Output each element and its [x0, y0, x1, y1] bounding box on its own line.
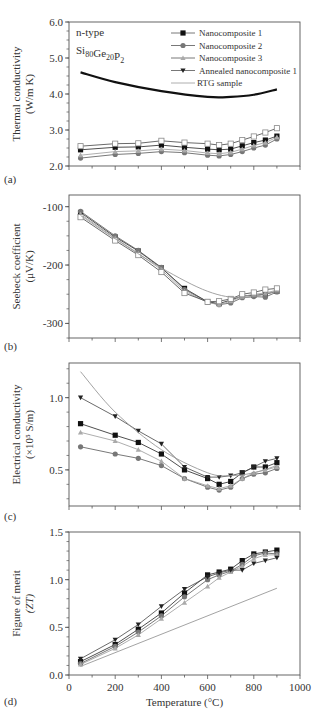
- y-tick-label: 6.0: [49, 16, 63, 28]
- y-axis-unit: (×10⁵ S/m): [23, 410, 36, 459]
- y-axis-title: Thermal conductivity: [10, 46, 22, 141]
- series-nanocomposite-1: [78, 210, 280, 306]
- y-tick-label: 1.0: [49, 392, 63, 404]
- series-annealed-nanocomposite-1: [78, 126, 280, 149]
- panel-label: (b): [4, 340, 17, 353]
- x-tick-label: 0: [66, 681, 72, 693]
- panel-label: (c): [4, 510, 17, 523]
- panel-label: (d): [4, 695, 17, 708]
- series-nanocomposite-1: [78, 548, 280, 665]
- series-rtg-sample: [81, 588, 277, 666]
- y-tick-label: 0.5: [49, 621, 63, 633]
- series-annealed-nanocomposite-1: [78, 556, 280, 662]
- y-axis-unit: (ZT): [23, 593, 36, 613]
- legend-item: Nanocomposite 3: [199, 53, 263, 63]
- y-axis-title: Electrical conductivity: [10, 384, 22, 484]
- plot-frame: [69, 195, 300, 338]
- series-nanocomposite-2: [78, 136, 280, 160]
- figure: 2.03.04.05.06.0Thermal conductivity(W/m …: [0, 0, 324, 727]
- y-axis-title: Seebeck coefficient: [10, 223, 22, 309]
- y-tick-label: 3.0: [49, 124, 63, 136]
- x-axis-title: Temperature (°C): [146, 696, 224, 709]
- y-axis-unit: (W/m K): [23, 74, 36, 114]
- legend-item: Nanocomposite 1: [199, 28, 262, 38]
- x-tick-label: 800: [246, 681, 263, 693]
- series-nanocomposite-1: [78, 421, 280, 487]
- y-tick-label: -100: [43, 201, 64, 213]
- series-rtg-sample: [81, 72, 277, 97]
- series-nanocomposite-2: [78, 209, 280, 308]
- series-annealed-nanocomposite-1: [78, 215, 280, 305]
- y-tick-label: -300: [43, 317, 64, 329]
- y-tick-label: 2.0: [49, 160, 63, 172]
- series-nanocomposite-2: [78, 550, 280, 666]
- panel-a: 2.03.04.05.06.0Thermal conductivity(W/m …: [4, 16, 300, 186]
- annotation-type: n-type: [76, 26, 104, 38]
- x-tick-label: 200: [107, 681, 124, 693]
- series-nanocomposite-2: [78, 444, 280, 493]
- y-tick-label: 1.0: [49, 574, 63, 586]
- series-annealed-nanocomposite-1: [78, 396, 280, 480]
- plot-frame: [69, 363, 300, 506]
- legend-item: Annealed nanocomposite 1: [199, 66, 297, 76]
- x-tick-label: 1000: [289, 681, 312, 693]
- series-rtg-sample: [81, 372, 277, 476]
- y-tick-label: -200: [43, 259, 64, 271]
- y-tick-label: 0.0: [49, 669, 63, 681]
- y-tick-label: 5.0: [49, 52, 63, 64]
- series-nanocomposite-3: [78, 212, 280, 307]
- panel-c: 0.51.0Electrical conductivity(×10⁵ S/m)(…: [4, 363, 300, 523]
- panel-d: 0.00.51.01.502004006008001000Temperature…: [4, 526, 312, 709]
- legend: Nanocomposite 1Nanocomposite 2Nanocompos…: [171, 28, 297, 88]
- panel-b: -100-200-300Seebeck coefficient(μV/K)(b): [4, 195, 300, 353]
- panel-label: (a): [4, 173, 17, 186]
- y-axis-title: Figure of merit: [10, 570, 22, 637]
- x-tick-label: 600: [199, 681, 216, 693]
- y-tick-label: 4.0: [49, 88, 63, 100]
- legend-item: RTG sample: [197, 78, 242, 88]
- legend-item: Nanocomposite 2: [199, 41, 262, 51]
- y-tick-label: 1.5: [49, 526, 63, 538]
- y-tick-label: 0.5: [49, 464, 63, 476]
- y-axis-unit: (μV/K): [23, 250, 36, 283]
- annotation-composition: Si80Ge20P2: [76, 44, 124, 65]
- x-tick-label: 400: [153, 681, 170, 693]
